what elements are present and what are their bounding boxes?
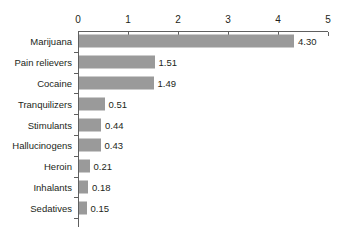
bar — [79, 76, 154, 89]
bar-value-label: 4.30 — [298, 36, 317, 47]
x-axis-tick-label: 0 — [68, 14, 88, 26]
bar-value-label: 0.21 — [94, 161, 113, 172]
bar-row: Pain relievers1.51 — [0, 52, 343, 73]
x-axis-tick-label: 4 — [268, 14, 288, 26]
x-axis-tick-label: 2 — [168, 14, 188, 26]
bar — [79, 160, 90, 173]
x-axis-tick-label: 5 — [318, 14, 338, 26]
category-label: Heroin — [0, 161, 72, 172]
bar-value-label: 0.51 — [109, 98, 128, 109]
category-label: Pain relievers — [0, 57, 72, 68]
category-label: Cocaine — [0, 77, 72, 88]
bar-value-label: 0.43 — [105, 140, 124, 151]
category-label: Marijuana — [0, 36, 72, 47]
bar-row: Tranquilizers0.51 — [0, 93, 343, 114]
bar-row: Inhalants0.18 — [0, 177, 343, 198]
bar-row: Heroin0.21 — [0, 156, 343, 177]
bar — [79, 35, 294, 48]
category-label: Tranquilizers — [0, 98, 72, 109]
bar-chart: 012345 Marijuana4.30Pain relievers1.51Co… — [0, 0, 343, 236]
x-axis-tick-label: 1 — [118, 14, 138, 26]
bar — [79, 97, 105, 110]
category-label: Hallucinogens — [0, 140, 72, 151]
bar-row: Cocaine1.49 — [0, 73, 343, 94]
bar-value-label: 0.44 — [105, 119, 124, 130]
category-label: Sedatives — [0, 202, 72, 213]
bar — [79, 180, 88, 193]
category-label: Inhalants — [0, 181, 72, 192]
bar — [79, 56, 155, 69]
x-axis-tick-label: 3 — [218, 14, 238, 26]
category-label: Stimulants — [0, 119, 72, 130]
bar-value-label: 0.18 — [92, 181, 111, 192]
bar-value-label: 1.49 — [158, 77, 177, 88]
bar-row: Stimulants0.44 — [0, 114, 343, 135]
bar-value-label: 1.51 — [159, 57, 178, 68]
y-axis-tick — [74, 218, 78, 219]
bar-row: Hallucinogens0.43 — [0, 135, 343, 156]
bar-row: Sedatives0.15 — [0, 197, 343, 218]
bar-row: Marijuana4.30 — [0, 31, 343, 52]
bar — [79, 139, 101, 152]
bar — [79, 201, 87, 214]
bar — [79, 118, 101, 131]
bar-value-label: 0.15 — [91, 202, 110, 213]
